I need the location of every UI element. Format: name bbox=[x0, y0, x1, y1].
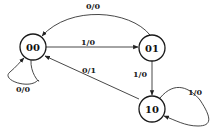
state-00: 00 bbox=[20, 34, 46, 60]
edge-01-to-00 bbox=[42, 14, 150, 36]
edge-label-00-self-loop: 0/0 bbox=[16, 84, 30, 94]
state-diagram: 0/0 1/0 1/0 0/1 0/0 1/0 00 01 10 bbox=[0, 0, 213, 132]
edge-label-00-to-01: 1/0 bbox=[81, 37, 95, 47]
edge-00-self-loop bbox=[8, 58, 39, 84]
state-10-label: 10 bbox=[145, 104, 159, 115]
edge-label-10-self-loop: 1/0 bbox=[188, 87, 202, 97]
state-01-label: 01 bbox=[145, 43, 159, 54]
edge-label-10-to-00: 0/1 bbox=[82, 65, 96, 75]
edge-label-01-to-10: 1/0 bbox=[133, 69, 147, 79]
state-00-label: 00 bbox=[26, 42, 40, 53]
state-10: 10 bbox=[139, 96, 165, 122]
state-01: 01 bbox=[139, 35, 165, 61]
edge-label-01-to-00: 0/0 bbox=[86, 1, 100, 11]
edge-10-to-00 bbox=[45, 56, 139, 99]
